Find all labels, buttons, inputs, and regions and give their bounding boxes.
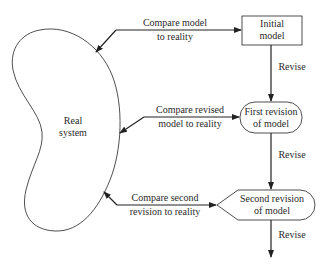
real-system-label: Real system	[48, 115, 98, 139]
revise-label-2: Revise	[274, 149, 310, 161]
first-revision-label: First revision of model	[240, 106, 302, 130]
revise-label-3: Revise	[274, 229, 310, 241]
second-revision-label: Second revision of model	[232, 193, 312, 217]
initial-model-line1: Initial	[242, 18, 302, 30]
compare-second-line2: revision to reality	[117, 206, 213, 218]
second-revision-line1: Second revision	[232, 193, 312, 205]
compare-first-line2: model to reality	[145, 118, 235, 130]
real-system-line1: Real	[48, 115, 98, 127]
revise-label-1: Revise	[274, 61, 310, 73]
compare-initial-line1: Compare model	[130, 17, 220, 29]
first-revision-line1: First revision	[240, 106, 302, 118]
compare-first-line1: Compare revised	[145, 104, 235, 116]
real-system-line2: system	[48, 127, 98, 139]
first-revision-line2: of model	[240, 118, 302, 130]
compare-second-label: Compare second revision to reality	[117, 192, 213, 218]
compare-first-label: Compare revised model to reality	[145, 104, 235, 130]
initial-model-line2: model	[242, 30, 302, 42]
second-revision-line2: of model	[232, 205, 312, 217]
compare-initial-label: Compare model to reality	[130, 17, 220, 43]
compare-initial-line2: to reality	[130, 31, 220, 43]
initial-model-label: Initial model	[242, 18, 302, 42]
compare-second-line1: Compare second	[117, 192, 213, 204]
